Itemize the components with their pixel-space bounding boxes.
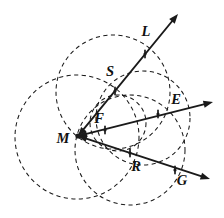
label-G: G xyxy=(177,172,188,188)
ray-MG-arrowhead-outer xyxy=(200,173,210,180)
ray-MG xyxy=(79,136,204,177)
ray-ME-arrowhead-outer xyxy=(203,101,213,108)
label-R: R xyxy=(130,158,141,174)
label-S: S xyxy=(106,63,114,79)
point-R xyxy=(128,149,131,156)
label-E: E xyxy=(170,91,181,107)
label-F: F xyxy=(93,110,104,126)
geometry-diagram: LSEFMRG xyxy=(0,0,224,218)
diagram-canvas: LSEFMRG xyxy=(0,0,224,218)
point-F xyxy=(103,126,106,133)
circle-right xyxy=(96,71,190,165)
label-M: M xyxy=(56,130,71,146)
point-labels-group: LSEFMRG xyxy=(56,23,188,188)
label-L: L xyxy=(141,23,151,39)
vertex-point-m xyxy=(75,133,80,138)
